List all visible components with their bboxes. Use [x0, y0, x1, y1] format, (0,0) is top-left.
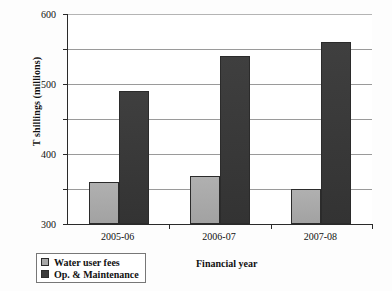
bar-water-user-fees	[190, 176, 220, 224]
bar-group	[271, 14, 372, 224]
legend-label-water-user-fees: Water user fees	[54, 257, 120, 268]
y-axis-tick-label: 300	[41, 219, 56, 230]
x-axis-category-separator	[372, 224, 373, 229]
x-axis-category-separator	[169, 224, 170, 229]
legend-item-op-maintenance: Op. & Maintenance	[41, 268, 139, 280]
legend-label-op-maintenance: Op. & Maintenance	[54, 269, 139, 280]
bar-op-maintenance	[119, 91, 149, 224]
bar-chart-figure: T shillings (millions) 01002003004005006…	[0, 0, 392, 291]
y-axis-tick-label: 600	[41, 9, 56, 20]
bar-group	[68, 14, 169, 224]
plot-area: 0100200300400500600	[67, 14, 372, 225]
bar-op-maintenance	[220, 56, 250, 224]
bar-op-maintenance	[321, 42, 351, 224]
y-axis-tick-label: 500	[41, 79, 56, 90]
bar-group	[169, 14, 270, 224]
x-axis-tick-label: 2005-06	[67, 231, 168, 242]
x-axis-category-separator	[271, 224, 272, 229]
y-axis-title: T shillings (millions)	[31, 22, 42, 182]
legend-swatch-icon-water-user-fees	[41, 258, 49, 266]
y-axis-tick: 0	[63, 224, 68, 225]
legend-swatch-icon-op-maintenance	[41, 270, 49, 278]
bar-water-user-fees	[89, 182, 119, 224]
chart-legend: Water user fees Op. & Maintenance	[36, 253, 146, 283]
legend-item-water-user-fees: Water user fees	[41, 256, 139, 268]
x-axis-tick-label: 2007-08	[270, 231, 371, 242]
y-axis-tick-label: 400	[41, 149, 56, 160]
x-axis-tick-label: 2006-07	[168, 231, 269, 242]
x-axis-title: Financial year	[196, 258, 257, 269]
bar-water-user-fees	[291, 189, 321, 224]
